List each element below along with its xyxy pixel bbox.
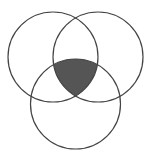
- venn-diagram: [0, 0, 153, 162]
